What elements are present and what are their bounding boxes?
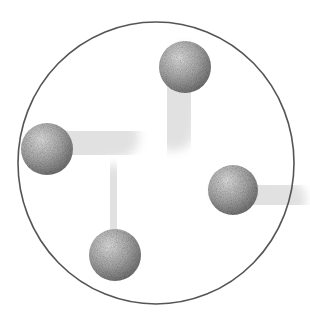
sphere-bottom <box>89 229 141 281</box>
motion-trails <box>47 67 285 255</box>
sphere-left <box>21 123 73 175</box>
diagram-canvas <box>0 0 310 319</box>
sphere-right <box>208 165 258 215</box>
spheres <box>21 41 258 281</box>
sphere-top <box>159 41 211 93</box>
diagram <box>0 0 310 319</box>
